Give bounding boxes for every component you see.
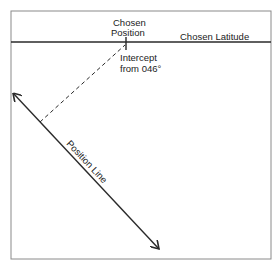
chosen-position-label-line2: Position: [111, 27, 145, 38]
intercept-dashed-line: [40, 45, 125, 122]
intercept-label-line1: Intercept: [120, 52, 157, 63]
intercept-label-line2: from 046°: [120, 63, 161, 74]
chosen-latitude-label: Chosen Latitude: [180, 31, 249, 42]
position-line: [13, 93, 159, 249]
intercept-diagram: Chosen Position Chosen Latitude Intercep…: [0, 0, 279, 267]
diagram-frame: [11, 11, 271, 259]
position-line-label: Position Line: [65, 138, 110, 185]
